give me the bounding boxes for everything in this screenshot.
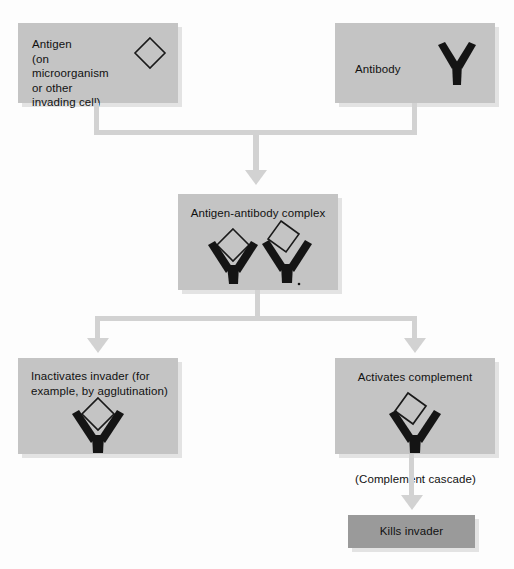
node-antigen-label: Antigen (on microorganism or other invad…: [32, 37, 118, 110]
complement-cascade-note: (Complement cascade): [318, 472, 513, 487]
connector-complex-down: [255, 290, 260, 316]
node-activates-label: Activates complement: [341, 370, 489, 385]
node-kills-label: Kills invader: [348, 524, 475, 539]
connector-activates-down: [409, 454, 414, 495]
node-inactivates: Inactivates invader (for example, by agg…: [18, 358, 178, 454]
y-shape-with-tilted-diamond-icon: [380, 390, 450, 456]
node-activates: Activates complement: [335, 358, 495, 454]
connector-antibody-down: [412, 103, 417, 130]
connector-split-horizontal: [95, 316, 417, 321]
node-antibody: Antibody: [335, 23, 495, 103]
arrow-head-to-kills: [401, 495, 423, 510]
y-shape-with-tilted-diamond-icon: [254, 218, 320, 288]
y-shape-with-diamond-icon: [66, 394, 130, 456]
y-shape-antibody-icon: [430, 37, 484, 91]
connector-merge-stem: [253, 135, 259, 170]
arrow-head-to-complex: [245, 170, 267, 185]
arrow-head-to-activates: [404, 338, 426, 353]
node-antibody-label: Antibody: [355, 62, 431, 77]
connector-antigen-down: [94, 103, 99, 130]
connector-split-right-stem: [412, 321, 417, 338]
connector-split-left-stem: [95, 321, 100, 338]
diamond-outline-icon: [126, 29, 174, 75]
node-kills: Kills invader: [348, 515, 475, 548]
node-antigen: Antigen (on microorganism or other invad…: [18, 23, 178, 103]
node-complex: Antigen-antibody complex: [178, 194, 338, 290]
diagram-canvas: Antigen (on microorganism or other invad…: [0, 0, 514, 569]
arrow-head-to-inactivates: [87, 338, 109, 353]
